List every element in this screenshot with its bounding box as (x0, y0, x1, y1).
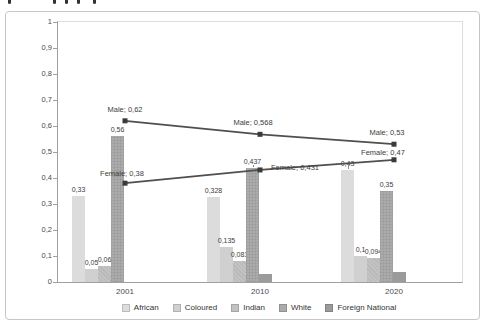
legend-swatch-icon (122, 304, 130, 312)
legend-swatch-icon (231, 304, 239, 312)
legend-item-white: White (279, 303, 311, 312)
cropped-text-fragment (93, 0, 96, 4)
y-axis-tick-mark (53, 256, 57, 257)
marker-female (123, 181, 128, 186)
x-axis-category-label: 2001 (116, 287, 134, 296)
y-axis-tick-label: 0,3 (10, 200, 52, 208)
y-axis-tick-mark (53, 282, 57, 283)
y-axis-tick-mark (53, 48, 57, 49)
cropped-text-fragment (65, 0, 68, 4)
y-axis-tick-mark (53, 22, 57, 23)
legend-swatch-icon (173, 304, 181, 312)
y-axis-tick-label: 0,5 (10, 148, 52, 156)
y-axis-tick-label: 0,7 (10, 96, 52, 104)
y-axis-tick-label: 0,8 (10, 70, 52, 78)
y-axis-tick-mark (53, 152, 57, 153)
legend-label: Foreign National (337, 303, 396, 312)
cropped-text-fragment (53, 0, 56, 4)
y-axis-tick-label: 0,4 (10, 174, 52, 182)
y-axis-tick-label: 0,6 (10, 122, 52, 130)
line-data-label: Male; 0,62 (107, 105, 142, 114)
marker-female (392, 157, 397, 162)
cropped-text-fragment (8, 0, 11, 4)
y-axis-tick-mark (53, 230, 57, 231)
line-data-label: Male; 0,568 (233, 118, 272, 127)
y-axis-tick-mark (53, 178, 57, 179)
legend-item-foreign-national: Foreign National (325, 303, 396, 312)
marker-female (258, 167, 263, 172)
legend-item-coloured: Coloured (173, 303, 217, 312)
screenshot-page: 10,90,80,70,60,50,40,30,20,100,330,3280,… (0, 0, 486, 328)
y-axis-tick-mark (53, 204, 57, 205)
line-data-label: Male; 0,53 (369, 128, 404, 137)
y-axis-tick-label: 0,1 (10, 252, 52, 260)
x-axis-category-label: 2020 (385, 287, 403, 296)
marker-male (123, 118, 128, 123)
plot-area: 10,90,80,70,60,50,40,30,20,100,330,3280,… (57, 21, 463, 283)
legend-swatch-icon (279, 304, 287, 312)
chart-legend: AfricanColouredIndianWhiteForeign Nation… (57, 303, 461, 312)
line-data-label: Female; 0,431 (271, 163, 319, 172)
y-axis-tick-label: 0 (10, 278, 52, 286)
line-data-label: Female; 0,38 (100, 169, 144, 178)
marker-male (392, 142, 397, 147)
line-data-label: Female; 0,47 (361, 148, 405, 157)
legend-label: Indian (243, 303, 265, 312)
y-axis-tick-mark (53, 126, 57, 127)
legend-item-african: African (122, 303, 159, 312)
y-axis-tick-label: 0,9 (10, 44, 52, 52)
cropped-text-fragment (77, 0, 80, 4)
y-axis-tick-label: 1 (10, 18, 52, 26)
x-axis-category-label: 2010 (251, 287, 269, 296)
y-axis-tick-label: 0,2 (10, 226, 52, 234)
y-axis-tick-mark (53, 100, 57, 101)
legend-label: Coloured (185, 303, 217, 312)
y-axis-tick-mark (53, 74, 57, 75)
legend-swatch-icon (325, 304, 333, 312)
legend-label: White (291, 303, 311, 312)
legend-item-indian: Indian (231, 303, 265, 312)
marker-male (258, 132, 263, 137)
legend-label: African (134, 303, 159, 312)
